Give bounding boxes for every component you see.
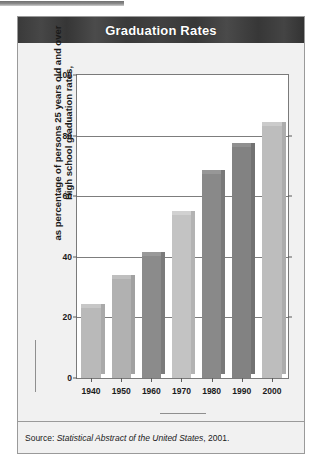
x-tick-label: 1950	[112, 386, 131, 396]
x-tick-label: 1980	[202, 386, 221, 396]
bar-front-face	[81, 308, 100, 378]
x-tick-mark	[151, 378, 152, 382]
x-axis-title-rule	[160, 413, 206, 414]
bar-top-face	[232, 143, 251, 147]
y-tick-mark-right	[288, 135, 292, 136]
bar-top-face	[172, 211, 191, 215]
bar-side-face	[161, 252, 165, 374]
bar-side-face	[101, 304, 105, 374]
y-tick-mark-right	[288, 196, 292, 197]
chart-body: High school graduation rates, as percent…	[18, 43, 304, 421]
bar-top-face	[81, 304, 100, 308]
bar-front-face	[172, 215, 191, 378]
bar-front-face	[202, 174, 221, 378]
x-tick-label: 1940	[82, 386, 101, 396]
bar-front-face	[142, 256, 161, 378]
source-prefix: Source:	[25, 433, 54, 443]
bar-front-face	[232, 147, 251, 378]
source-footer: Source: Statistical Abstract of the Unit…	[18, 421, 304, 453]
y-tick-label: 40	[63, 252, 72, 262]
bar-side-face	[131, 275, 135, 374]
x-tick-mark	[91, 378, 92, 382]
x-tick-label: 1960	[142, 386, 161, 396]
x-tick-mark	[272, 378, 273, 382]
x-tick-label: 1970	[172, 386, 191, 396]
bar-1940[interactable]: 1940	[81, 304, 100, 378]
bar-top-face	[142, 252, 161, 256]
chart-title-banner: Graduation Rates	[18, 17, 304, 43]
y-tick-label: 80	[63, 131, 72, 141]
x-tick-mark	[242, 378, 243, 382]
x-tick-label: 2000	[262, 386, 281, 396]
y-axis-title-line2: as percentage of persons 25 years old an…	[52, 26, 63, 241]
plot-area: 020406080100 194019501960197019801990200…	[76, 74, 289, 379]
y-tick-label: 60	[63, 191, 72, 201]
chart-figure: Graduation Rates High school graduation …	[17, 16, 305, 454]
y-axis-title-rule	[35, 340, 36, 392]
y-tick-label: 0	[67, 373, 72, 383]
bar-1980[interactable]: 1980	[202, 170, 221, 378]
source-text: Source: Statistical Abstract of the Unit…	[18, 433, 229, 443]
source-title: Statistical Abstract of the United State…	[57, 433, 204, 443]
bar-front-face	[112, 279, 131, 378]
bar-1990[interactable]: 1990	[232, 143, 251, 378]
bar-top-face	[202, 170, 221, 174]
bars-container: 1940195019601970198019902000	[77, 75, 288, 378]
x-tick-mark	[121, 378, 122, 382]
bar-side-face	[221, 170, 225, 374]
scan-artifact-strip	[0, 1, 124, 6]
x-tick-mark	[212, 378, 213, 382]
bar-top-face	[262, 122, 281, 126]
bar-front-face	[262, 126, 281, 378]
y-tick-label: 100	[58, 70, 72, 80]
x-tick-label: 1990	[232, 386, 251, 396]
bar-side-face	[251, 143, 255, 374]
bar-1960[interactable]: 1960	[142, 252, 161, 378]
bar-top-face	[112, 275, 131, 279]
bar-1970[interactable]: 1970	[172, 211, 191, 378]
page-title: Graduation Rates	[105, 23, 217, 38]
y-tick-mark-right	[288, 256, 292, 257]
bar-side-face	[282, 122, 286, 374]
bar-1950[interactable]: 1950	[112, 275, 131, 378]
y-tick-label: 20	[63, 312, 72, 322]
bar-2000[interactable]: 2000	[262, 122, 281, 378]
bar-side-face	[191, 211, 195, 374]
source-suffix: , 2001.	[203, 433, 229, 443]
y-tick-mark-right	[288, 317, 292, 318]
x-tick-mark	[181, 378, 182, 382]
